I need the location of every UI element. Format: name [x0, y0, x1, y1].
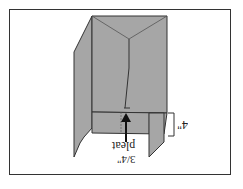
- pleat-label: pleat: [112, 140, 135, 152]
- height-label: 4": [177, 119, 188, 131]
- right-flap: [149, 113, 164, 157]
- pleat-size-label: 3/4": [117, 154, 136, 165]
- left-flap: [74, 16, 92, 157]
- height-bracket: [168, 113, 174, 136]
